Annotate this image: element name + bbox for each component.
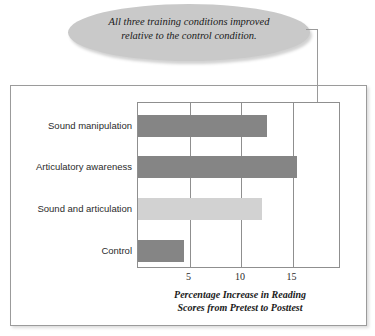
callout-line-2: relative to the control condition. xyxy=(78,29,300,43)
bar-sound-manipulation xyxy=(138,115,267,137)
category-label-control: Control xyxy=(14,245,132,256)
bar-sound-and-articulation xyxy=(138,198,262,220)
category-label-articulatory-awareness: Articulatory awareness xyxy=(14,161,132,172)
x-axis-title: Percentage Increase in Reading Scores fr… xyxy=(140,289,340,314)
gridline-15 xyxy=(293,103,294,267)
bar-control xyxy=(138,240,184,262)
xtick-label-10: 10 xyxy=(225,271,255,282)
xtick-label-15: 15 xyxy=(277,271,307,282)
x-axis-title-line-2: Scores from Pretest to Posttest xyxy=(140,302,340,315)
plot-area xyxy=(137,102,340,268)
category-label-sound-manipulation: Sound manipulation xyxy=(14,120,132,131)
chart-figure: All three training conditions improved r… xyxy=(0,0,375,336)
x-axis-title-line-1: Percentage Increase in Reading xyxy=(140,289,340,302)
callout-text: All three training conditions improved r… xyxy=(78,15,300,42)
bar-articulatory-awareness xyxy=(138,156,297,178)
xtick-label-5: 5 xyxy=(174,271,204,282)
callout-line-1: All three training conditions improved xyxy=(78,15,300,29)
category-label-sound-and-articulation: Sound and articulation xyxy=(14,203,132,214)
